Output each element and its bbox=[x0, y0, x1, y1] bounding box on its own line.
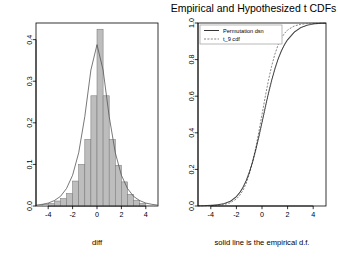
x-tick-label: 2 bbox=[286, 210, 290, 219]
histogram-bar bbox=[54, 201, 60, 206]
y-tick-label: 0.2 bbox=[187, 164, 196, 174]
x-tick-label: 2 bbox=[119, 210, 123, 219]
x-tick-label: -4 bbox=[45, 210, 51, 219]
left-panel-histogram: -4-2024 0.00.10.20.30.4 diff bbox=[0, 0, 169, 268]
x-axis: -4-2024 bbox=[45, 206, 148, 219]
right-panel-cdf: Empirical and Hypothesized t CDFs -4-202… bbox=[169, 0, 338, 268]
x-tick-label: 4 bbox=[144, 210, 148, 219]
x-axis-label: solid line is the empirical d.f. bbox=[215, 238, 310, 247]
y-tick-label: 0.8 bbox=[187, 55, 196, 65]
plot-frame bbox=[198, 23, 326, 206]
x-tick-label: -4 bbox=[208, 210, 214, 219]
histogram-bar bbox=[128, 194, 134, 206]
y-tick-label: 0.0 bbox=[187, 201, 196, 211]
cdf-svg: -4-2024 0.00.20.40.60.81.0 Permutation d… bbox=[169, 0, 338, 268]
t9-cdf-line bbox=[198, 23, 326, 206]
histogram-bar bbox=[85, 139, 91, 206]
y-tick-label: 0.4 bbox=[187, 128, 196, 138]
x-axis: -4-2024 bbox=[208, 206, 316, 219]
y-tick-label: 1.0 bbox=[187, 18, 196, 28]
x-tick-label: -2 bbox=[233, 210, 239, 219]
y-tick-label: 0.0 bbox=[25, 201, 34, 211]
legend: Permutation dsn t_9 cdf bbox=[200, 25, 282, 44]
y-tick-label: 0.2 bbox=[25, 118, 34, 128]
x-tick-label: 0 bbox=[260, 210, 264, 219]
chart-title: Empirical and Hypothesized t CDFs bbox=[169, 2, 338, 15]
permutation-cdf-line bbox=[198, 23, 326, 206]
histogram-bar bbox=[91, 96, 97, 206]
figure-root: -4-2024 0.00.10.20.30.4 diff Empirical a… bbox=[0, 0, 338, 268]
y-tick-label: 0.3 bbox=[25, 76, 34, 86]
y-axis: 0.00.10.20.30.4 bbox=[25, 35, 36, 211]
histogram-bar bbox=[73, 181, 79, 206]
y-tick-label: 0.6 bbox=[187, 91, 196, 101]
x-tick-label: 0 bbox=[95, 210, 99, 219]
y-axis: 0.00.20.40.60.81.0 bbox=[187, 18, 198, 211]
x-tick-label: -2 bbox=[69, 210, 75, 219]
histogram-bar bbox=[134, 200, 140, 206]
y-tick-label: 0.4 bbox=[25, 35, 34, 45]
legend-label-t9: t_9 cdf bbox=[223, 36, 240, 42]
histogram-svg: -4-2024 0.00.10.20.30.4 diff bbox=[0, 0, 169, 268]
x-tick-label: 4 bbox=[311, 210, 315, 219]
histogram-bar bbox=[121, 182, 127, 206]
histogram-bar bbox=[60, 199, 66, 206]
histogram-bar bbox=[42, 204, 48, 206]
legend-label-permutation: Permutation dsn bbox=[223, 28, 264, 34]
histogram-bar bbox=[79, 164, 85, 206]
histogram-bar bbox=[67, 194, 73, 206]
x-axis-label: diff bbox=[92, 238, 103, 247]
y-tick-label: 0.1 bbox=[25, 159, 34, 169]
